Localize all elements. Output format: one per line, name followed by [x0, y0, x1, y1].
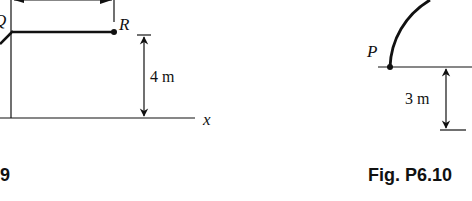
x-axis-label: x: [202, 110, 211, 129]
point-r-dot: [111, 29, 117, 35]
point-q-label-partial: Q: [0, 11, 6, 30]
right-figure-caption: Fig. P6.10: [368, 165, 452, 185]
arrowhead-left: [14, 0, 24, 3]
left-figure-caption: .9: [0, 165, 10, 185]
left-figure: x R Q 4 m .9: [0, 0, 211, 185]
right-figure: P 3 m Fig. P6.10: [366, 0, 472, 185]
point-p-label: P: [366, 42, 377, 61]
path-arc: [390, 0, 430, 67]
depth-dimension-label: 3 m: [405, 90, 430, 107]
point-r-label: R: [118, 15, 130, 34]
height-dimension-label: 4 m: [150, 68, 175, 85]
arrowhead-right: [100, 0, 112, 4]
diagram-canvas: x R Q 4 m .9 P 3 m Fig. P6.10: [0, 0, 472, 201]
